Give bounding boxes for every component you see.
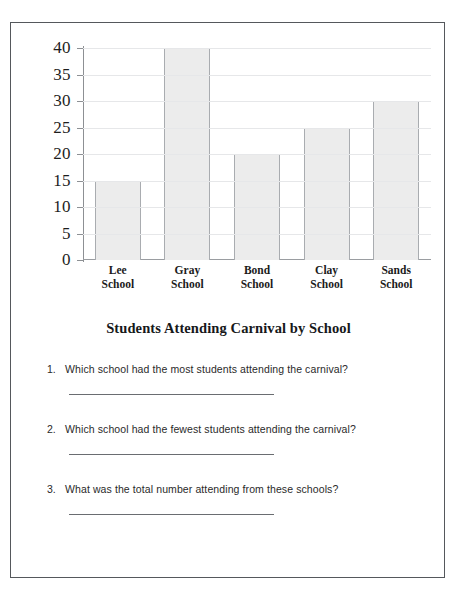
- question-item: 2.Which school had the fewest students a…: [11, 423, 446, 483]
- bar: [95, 181, 141, 261]
- gridline: [83, 75, 431, 76]
- x-category-label-line: School: [153, 278, 223, 292]
- answer-blank-line[interactable]: [69, 394, 274, 395]
- bar: [304, 128, 350, 261]
- y-tick-label: 10: [53, 197, 71, 217]
- chart-plot-area: 0510152025303540 LeeSchoolGraySchoolBond…: [31, 48, 431, 313]
- y-tick-mark: [77, 154, 83, 155]
- y-tick-label: 40: [53, 38, 71, 58]
- y-tick-mark: [77, 101, 83, 102]
- y-axis-tick-labels: 0510152025303540: [31, 48, 71, 260]
- x-category-label-line: School: [83, 278, 153, 292]
- x-category-label: ClaySchool: [292, 264, 362, 291]
- plot-frame: [83, 48, 431, 260]
- x-category-label-line: Clay: [292, 264, 362, 278]
- question-number: 2.: [47, 423, 65, 435]
- gridline: [83, 154, 431, 155]
- x-category-label-line: School: [222, 278, 292, 292]
- question-number: 1.: [47, 363, 65, 375]
- question-number: 3.: [47, 483, 65, 495]
- x-category-label: LeeSchool: [83, 264, 153, 291]
- y-tick-mark: [77, 75, 83, 76]
- question-text: Which school had the fewest students att…: [65, 423, 356, 435]
- question-row: 1.Which school had the most students att…: [47, 363, 437, 375]
- gridline: [83, 234, 431, 235]
- gridline: [83, 128, 431, 129]
- x-category-label-line: Gray: [153, 264, 223, 278]
- answer-blank-line[interactable]: [69, 514, 274, 515]
- gridline: [83, 48, 431, 49]
- y-tick-label: 5: [62, 224, 71, 244]
- question-text: What was the total number attending from…: [65, 483, 338, 495]
- y-tick-mark: [77, 181, 83, 182]
- y-tick-mark: [77, 128, 83, 129]
- bar-chart: 0510152025303540 LeeSchoolGraySchoolBond…: [11, 23, 446, 313]
- gridline: [83, 207, 431, 208]
- answer-blank-line[interactable]: [69, 454, 274, 455]
- x-axis-category-labels: LeeSchoolGraySchoolBondSchoolClaySchoolS…: [83, 264, 431, 304]
- x-category-label-line: Lee: [83, 264, 153, 278]
- gridline: [83, 101, 431, 102]
- questions-list: 1.Which school had the most students att…: [11, 363, 446, 543]
- y-tick-label: 0: [62, 250, 71, 270]
- x-category-label: BondSchool: [222, 264, 292, 291]
- question-row: 2.Which school had the fewest students a…: [47, 423, 437, 435]
- y-tick-mark: [77, 207, 83, 208]
- worksheet-page: 0510152025303540 LeeSchoolGraySchoolBond…: [10, 22, 445, 578]
- x-category-label: GraySchool: [153, 264, 223, 291]
- x-category-label-line: Bond: [222, 264, 292, 278]
- gridline: [83, 181, 431, 182]
- y-tick-mark: [77, 260, 83, 261]
- question-row: 3.What was the total number attending fr…: [47, 483, 437, 495]
- y-tick-label: 35: [53, 65, 71, 85]
- y-tick-label: 30: [53, 91, 71, 111]
- x-category-label-line: School: [361, 278, 431, 292]
- y-tick-mark: [77, 48, 83, 49]
- y-tick-label: 25: [53, 118, 71, 138]
- x-category-label: SandsSchool: [361, 264, 431, 291]
- question-text: Which school had the most students atten…: [65, 363, 348, 375]
- y-tick-mark: [77, 234, 83, 235]
- y-tick-label: 20: [53, 144, 71, 164]
- x-category-label-line: School: [292, 278, 362, 292]
- question-item: 1.Which school had the most students att…: [11, 363, 446, 423]
- question-item: 3.What was the total number attending fr…: [11, 483, 446, 543]
- chart-title: Students Attending Carnival by School: [11, 320, 446, 337]
- y-tick-label: 15: [53, 171, 71, 191]
- x-category-label-line: Sands: [361, 264, 431, 278]
